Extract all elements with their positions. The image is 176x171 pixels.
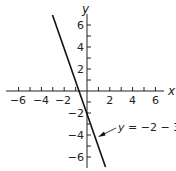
y-tick-label: −4: [68, 129, 84, 142]
y-tick-label: 4: [77, 41, 84, 54]
x-tick-label: −6: [10, 94, 26, 107]
x-axis-label: x: [167, 84, 176, 98]
equation-label: y = −2 − 3x: [117, 121, 176, 134]
x-tick-label: 6: [152, 94, 159, 107]
y-tick-label: −2: [68, 107, 84, 120]
x-tick-label: 4: [129, 94, 136, 107]
y-tick-label: 6: [77, 19, 84, 32]
y-axis-label: y: [81, 2, 90, 16]
y-tick-label: −6: [68, 151, 84, 164]
chart: −6 −4 −2 2 4 6 6 4 2 −2 −4 −6 x y y = −2…: [0, 0, 176, 171]
arrowhead-icon: [98, 132, 106, 138]
y-tick-label: 2: [77, 63, 84, 76]
x-tick-label: −2: [55, 94, 71, 107]
x-tick-label: −4: [33, 94, 49, 107]
x-tick-label: 2: [106, 94, 113, 107]
